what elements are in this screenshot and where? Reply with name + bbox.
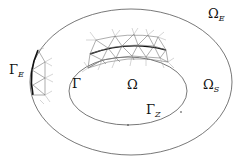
label-gamma: Γ bbox=[72, 77, 81, 90]
omega-s-sub: S bbox=[214, 85, 219, 94]
gamma-main: Γ bbox=[72, 76, 81, 91]
gamma-e-main: Γ bbox=[9, 62, 18, 77]
gamma-z-main: Γ bbox=[146, 102, 155, 117]
label-gamma-z: ΓZ bbox=[146, 103, 161, 119]
boundary-mesh-left-faint bbox=[38, 48, 53, 104]
label-omega: Ω bbox=[127, 78, 138, 91]
omega-e-main: Ω bbox=[208, 6, 219, 21]
omega-s-main: Ω bbox=[203, 77, 214, 92]
gamma-e-sub: E bbox=[18, 70, 24, 79]
label-omega-e: ΩE bbox=[208, 7, 225, 23]
omega-e-sub: E bbox=[219, 14, 225, 23]
gamma-z-sub: Z bbox=[155, 110, 161, 119]
label-omega-s: ΩS bbox=[203, 78, 219, 94]
boundary-mesh-left bbox=[32, 50, 45, 95]
interface-mesh-top bbox=[88, 34, 168, 68]
label-gamma-e: ΓE bbox=[9, 63, 24, 79]
omega-main: Ω bbox=[127, 77, 138, 92]
